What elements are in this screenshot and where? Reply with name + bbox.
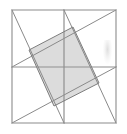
figure-canvas: Square with pinwheel cevians and shaded …: [0, 0, 127, 134]
geometric-figure: Square with pinwheel cevians and shaded …: [0, 0, 127, 134]
